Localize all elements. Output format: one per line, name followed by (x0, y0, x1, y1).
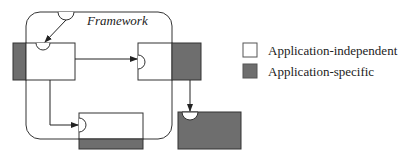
legend-swatch-specific (243, 64, 257, 78)
arrow-c1-to-c3 (50, 80, 78, 125)
arrow-framework-to-c1 (45, 20, 66, 42)
framework-label: Framework (86, 13, 148, 28)
framework-diagram: Framework Application-independent Applic… (0, 0, 398, 157)
legend-label-independent: Application-independent (268, 43, 398, 58)
legend: Application-independent Application-spec… (243, 43, 398, 79)
legend-label-specific: Application-specific (268, 64, 374, 79)
component-3 (79, 113, 143, 149)
component-2 (138, 43, 201, 80)
framework-hook-icon (58, 12, 74, 20)
component-4 (178, 112, 241, 149)
component-1 (13, 43, 75, 80)
legend-swatch-independent (243, 43, 257, 57)
